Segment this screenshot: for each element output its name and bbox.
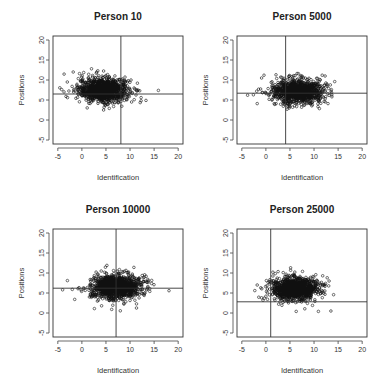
data-point	[134, 299, 137, 302]
data-point	[301, 270, 304, 273]
data-point	[331, 96, 334, 99]
y-tick-label: 0	[222, 311, 229, 315]
data-point	[306, 302, 309, 305]
data-point	[71, 85, 74, 88]
scatter-points	[59, 68, 160, 112]
y-tick-label: 0	[38, 118, 45, 122]
y-axis: -505101520	[222, 229, 234, 336]
data-point	[260, 77, 263, 80]
data-point	[103, 271, 106, 274]
data-point	[277, 270, 280, 273]
data-point	[327, 285, 330, 288]
data-point	[108, 107, 111, 110]
data-point	[77, 77, 80, 80]
x-axis: -505101520	[55, 148, 182, 160]
data-point	[282, 271, 285, 274]
y-tick-label: 0	[222, 118, 229, 122]
x-tick-label: 20	[174, 153, 182, 160]
data-point	[145, 99, 148, 102]
data-point	[255, 90, 258, 93]
data-point	[281, 304, 284, 307]
x-tick-label: -5	[55, 153, 61, 160]
y-tick-label: 15	[222, 249, 229, 257]
data-point	[72, 91, 75, 94]
y-tick-label: 5	[222, 98, 229, 102]
x-tick-label: 20	[358, 153, 366, 160]
x-tick-label: 20	[174, 346, 182, 353]
data-point	[275, 74, 278, 77]
y-tick-label: 10	[38, 269, 45, 277]
y-tick-label: 5	[38, 98, 45, 102]
data-point	[149, 290, 152, 293]
x-tick-label: 15	[150, 346, 158, 353]
data-point	[150, 279, 153, 282]
data-point	[279, 103, 282, 106]
data-point	[138, 297, 141, 300]
data-point	[333, 80, 336, 83]
data-point	[93, 274, 96, 277]
y-axis-label: Positions	[201, 268, 210, 299]
x-axis: -505101520	[239, 148, 366, 160]
x-tick-label: 0	[80, 153, 84, 160]
panel-title: Person 5000	[273, 11, 332, 22]
data-point	[66, 279, 69, 282]
data-point	[95, 271, 98, 274]
x-tick-label: -5	[239, 153, 245, 160]
data-point	[329, 84, 332, 87]
y-tick-label: 15	[38, 56, 45, 64]
data-point	[328, 280, 331, 283]
x-tick-label: 5	[104, 346, 108, 353]
data-point	[130, 79, 133, 82]
y-tick-label: 20	[38, 36, 45, 44]
data-point	[87, 73, 90, 76]
data-point	[256, 102, 259, 105]
data-point	[78, 101, 81, 104]
data-point	[97, 102, 100, 105]
x-axis-label: Identification	[97, 366, 139, 375]
x-axis-label: Identification	[281, 173, 323, 182]
data-point	[295, 310, 298, 313]
y-axis: -505101520	[38, 36, 50, 143]
x-tick-label: 0	[264, 153, 268, 160]
data-point	[140, 96, 143, 99]
data-point	[119, 310, 122, 313]
scatter-points	[254, 267, 335, 313]
data-point	[90, 68, 93, 71]
x-tick-label: 15	[150, 153, 158, 160]
data-point	[110, 308, 113, 311]
data-point	[136, 82, 139, 85]
y-tick-label: 10	[222, 76, 229, 84]
data-point	[125, 301, 128, 304]
x-tick-label: 15	[334, 153, 342, 160]
data-point	[100, 305, 103, 308]
data-point	[133, 98, 136, 101]
data-point	[327, 102, 330, 105]
panel-title: Person 10000	[86, 204, 151, 215]
data-point	[272, 271, 275, 274]
data-point	[256, 284, 259, 287]
panel-person-5000: Person 5000 Identification Positions -50…	[201, 11, 367, 182]
data-point	[135, 307, 138, 310]
data-point	[63, 91, 66, 94]
data-point	[66, 81, 69, 84]
data-point	[168, 289, 171, 292]
data-point	[254, 289, 257, 292]
data-point	[246, 94, 249, 97]
data-point	[277, 303, 280, 306]
x-tick-label: 5	[288, 153, 292, 160]
x-tick-label: 5	[288, 346, 292, 353]
data-point	[252, 94, 255, 97]
data-point	[63, 73, 66, 76]
data-point	[93, 307, 96, 310]
data-point	[130, 101, 133, 104]
x-tick-label: 10	[126, 346, 134, 353]
data-point	[258, 296, 261, 299]
data-point	[275, 77, 278, 80]
data-point	[102, 70, 105, 73]
x-tick-label: -5	[239, 346, 245, 353]
y-tick-label: -5	[222, 330, 229, 336]
data-point	[100, 270, 103, 273]
x-tick-label: 5	[104, 153, 108, 160]
data-point	[118, 268, 121, 271]
data-point	[320, 102, 323, 105]
